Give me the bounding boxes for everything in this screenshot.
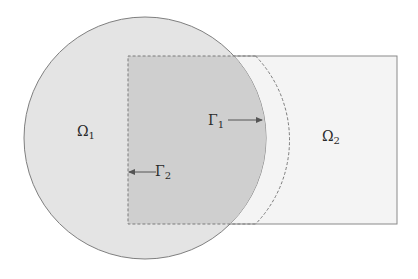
domain-diagram: Ω1 Ω2 Γ1 Γ2 [0,0,418,279]
